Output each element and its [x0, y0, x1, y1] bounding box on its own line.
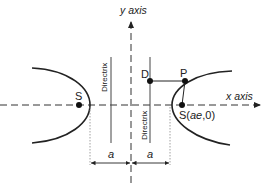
focus-right-label: S(ae,0): [179, 109, 215, 121]
hyperbola-diagram: y axis x axis Directrix Directrix S D P …: [0, 0, 266, 183]
dimension-left-label: a: [108, 148, 114, 160]
x-axis-label: x axis: [225, 90, 254, 102]
focus-left-label: S: [75, 90, 82, 102]
point-d-label: D: [141, 68, 149, 80]
hyperbola-right-branch: [172, 71, 232, 145]
directrix-left-label: Directrix: [100, 63, 109, 92]
directrix-right-label: Directrix: [140, 111, 149, 140]
y-axis-label: y axis: [119, 4, 148, 16]
focus-right-point: [179, 102, 185, 108]
dimension-right-label: a: [147, 148, 153, 160]
focus-left-point: [76, 102, 82, 108]
point-p-label: P: [180, 67, 187, 79]
